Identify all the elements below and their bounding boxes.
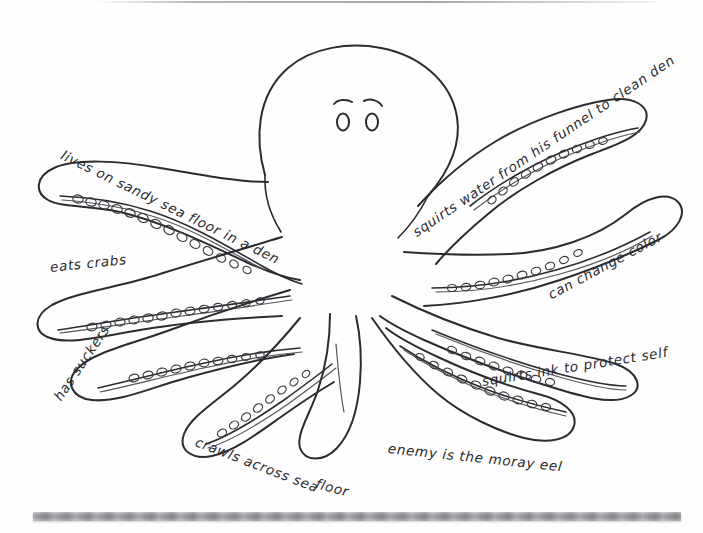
octopus-arm-top-right xyxy=(418,99,647,264)
octopus-arm-center-bottom xyxy=(299,314,360,459)
octopus-mantle xyxy=(259,46,457,238)
octopus-arm-left-lower xyxy=(71,290,302,400)
bottom-scan-bar xyxy=(33,512,681,521)
octopus-eyes xyxy=(334,100,382,131)
paper-sheet: .ink { fill:none; stroke:#2b2b30; stroke… xyxy=(0,0,703,533)
